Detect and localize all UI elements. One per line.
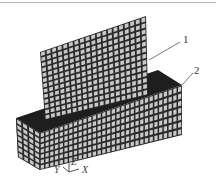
base-front-mesh-cell xyxy=(154,115,157,121)
base-front-mesh-cell xyxy=(178,122,181,128)
x-axis-arrow xyxy=(69,169,79,172)
base-front-mesh-cell xyxy=(112,140,115,145)
base-front-mesh-cell xyxy=(140,139,143,144)
base-front-mesh-cell xyxy=(159,120,162,126)
part-label-1: 1 xyxy=(183,33,189,45)
base-front-mesh-cell xyxy=(131,141,134,146)
base-front-mesh-cell xyxy=(145,138,148,143)
base-front-mesh-cell xyxy=(145,118,148,123)
x-axis-label: X xyxy=(81,164,89,175)
base-front-mesh-cell xyxy=(131,128,134,133)
leader-line-1 xyxy=(149,42,180,60)
base-front-mesh-cell xyxy=(140,126,143,131)
base-front-mesh-cell xyxy=(116,145,119,150)
base-front-mesh-cell xyxy=(126,143,129,148)
base-front-mesh-cell xyxy=(169,132,172,138)
base-front-mesh-cell xyxy=(140,132,143,137)
base-front-mesh-cell xyxy=(178,108,181,114)
base-front-mesh-cell xyxy=(159,134,162,139)
base-front-mesh-cell xyxy=(121,144,124,149)
base-front-mesh-cell xyxy=(159,127,162,133)
base-front-mesh-cell xyxy=(131,135,134,140)
base-front-mesh-cell xyxy=(145,131,148,136)
y-axis-arrow xyxy=(63,167,69,172)
base-front-mesh-cell xyxy=(173,102,176,108)
base-front-mesh-cell xyxy=(116,139,119,144)
base-front-mesh-cell xyxy=(88,152,91,157)
base-front-mesh-cell xyxy=(83,154,86,159)
base-front-mesh-cell xyxy=(102,143,105,148)
base-front-mesh-cell xyxy=(173,109,176,115)
base-front-mesh-cell xyxy=(150,123,153,128)
base-front-mesh-cell xyxy=(169,104,172,110)
base-front-mesh-cell xyxy=(150,137,153,142)
base-front-mesh-cell xyxy=(150,130,153,135)
base-front-mesh-cell xyxy=(154,135,157,140)
base-front-mesh-cell xyxy=(79,155,82,160)
z-axis-label: Z xyxy=(71,156,77,167)
base-front-mesh-cell xyxy=(173,123,176,129)
base-front-mesh-cell xyxy=(121,131,124,136)
base-front-mesh-cell xyxy=(178,115,181,121)
base-front-mesh-cell xyxy=(126,130,129,135)
base-front-mesh-cell xyxy=(116,132,119,137)
base-front-mesh-cell xyxy=(154,128,157,133)
base-front-mesh-cell xyxy=(159,113,162,119)
base-front-mesh-cell xyxy=(154,122,157,128)
base-front-mesh-cell xyxy=(164,133,167,139)
base-front-mesh-cell xyxy=(140,119,143,124)
base-front-mesh-cell xyxy=(178,101,181,107)
base-front-mesh-cell xyxy=(112,146,115,151)
base-front-mesh-cell xyxy=(169,125,172,131)
base-front-mesh-cell xyxy=(98,144,101,149)
base-front-mesh-cell xyxy=(145,124,148,129)
base-front-mesh-cell xyxy=(107,141,110,146)
base-front-mesh-cell xyxy=(150,116,153,122)
base-front-mesh-cell xyxy=(121,137,124,142)
y-axis-label: Y xyxy=(54,164,61,175)
base-front-mesh-cell xyxy=(164,112,167,118)
mesh-figure: 1 2 Z X Y xyxy=(0,0,216,188)
base-front-mesh-cell xyxy=(126,136,129,141)
base-front-mesh-cell xyxy=(102,149,105,154)
base-front-mesh-cell xyxy=(93,151,96,156)
base-front-mesh-cell xyxy=(164,126,167,132)
part-label-2: 2 xyxy=(194,64,200,76)
base-front-mesh-cell xyxy=(135,127,138,132)
base-front-mesh-cell xyxy=(98,150,101,155)
base-front-mesh-cell xyxy=(178,129,181,135)
base-front-mesh-cell xyxy=(107,147,110,152)
base-front-mesh-cell xyxy=(135,134,138,139)
base-front-mesh-cell xyxy=(135,140,138,145)
base-front-mesh-cell xyxy=(164,105,167,111)
base-front-mesh-cell xyxy=(164,119,167,125)
base-front-mesh-cell xyxy=(169,111,172,117)
base-front-mesh-cell xyxy=(173,116,176,122)
base-front-mesh-cell xyxy=(93,145,96,150)
base-front-mesh-cell xyxy=(169,118,172,124)
base-front-mesh-cell xyxy=(135,120,138,125)
leader-line-2 xyxy=(181,73,193,86)
base-front-mesh-cell xyxy=(173,130,176,136)
